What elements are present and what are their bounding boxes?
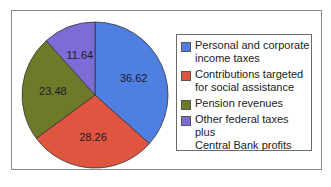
- legend-item-income-taxes: Personal and corporateincome taxes: [181, 39, 311, 65]
- slice-value-label: 23.48: [39, 85, 67, 97]
- legend-label: Contributions targetedfor social assista…: [195, 68, 303, 94]
- legend-label: Other federal taxes plusCentral Bank pro…: [195, 113, 311, 152]
- pie-chart: 36.6228.2623.4811.64: [21, 21, 169, 169]
- slice-value-label: 28.26: [79, 131, 107, 143]
- swatch-icon: [181, 42, 191, 52]
- slice-value-label: 11.64: [67, 49, 94, 61]
- legend-item-other-federal: Other federal taxes plusCentral Bank pro…: [181, 113, 311, 152]
- legend-label: Personal and corporateincome taxes: [195, 39, 309, 65]
- legend-label: Pension revenues: [195, 97, 283, 110]
- swatch-icon: [181, 71, 191, 81]
- legend: Personal and corporateincome taxes Contr…: [176, 34, 312, 151]
- swatch-icon: [181, 116, 191, 126]
- swatch-icon: [181, 100, 191, 110]
- legend-item-pension: Pension revenues: [181, 97, 311, 110]
- legend-item-social-assistance: Contributions targetedfor social assista…: [181, 68, 311, 94]
- slice-value-label: 36.62: [120, 72, 148, 84]
